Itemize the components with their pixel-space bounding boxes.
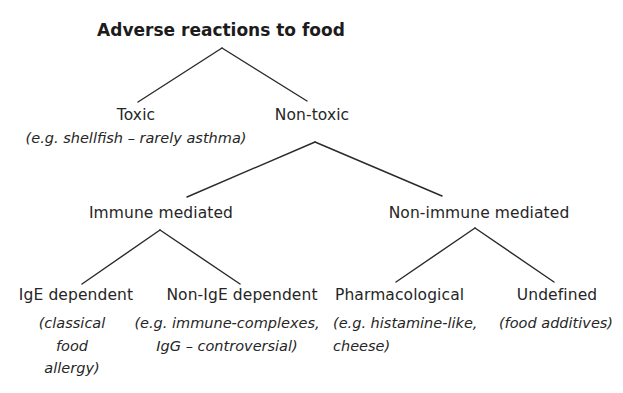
note-undefined: (food additives) — [499, 312, 613, 335]
note-pharmacological: (e.g. histamine-like, cheese) — [333, 312, 477, 357]
edge-non-toxic-to-non-immune — [315, 142, 442, 196]
note-toxic: (e.g. shellfish – rarely asthma) — [26, 127, 247, 150]
node-non-immune-mediated: Non-immune mediated — [389, 206, 570, 222]
note-line: (e.g. immune-complexes, — [134, 312, 319, 335]
edge-immune-to-ige — [82, 230, 160, 284]
edge-non-immune-to-undefined — [475, 228, 554, 282]
note-line: (e.g. histamine-like, — [333, 312, 477, 335]
node-immune-mediated: Immune mediated — [89, 206, 233, 222]
node-ige-dependent: IgE dependent — [19, 288, 133, 304]
note-non-ige-dependent: (e.g. immune-complexes, IgG – controvers… — [134, 312, 319, 357]
node-non-ige-dependent: Non-IgE dependent — [166, 288, 317, 304]
edge-immune-to-non-ige — [160, 230, 240, 284]
food-reaction-tree-diagram: Adverse reactions to food Toxic (e.g. sh… — [0, 0, 623, 393]
node-non-toxic: Non-toxic — [275, 108, 349, 124]
edge-non-toxic-to-immune — [187, 142, 315, 197]
node-pharmacological: Pharmacological — [335, 288, 464, 304]
edge-root-to-non-toxic — [222, 48, 307, 101]
note-line: (classical — [39, 312, 106, 335]
node-toxic: Toxic — [117, 108, 155, 124]
note-line: allergy) — [39, 357, 106, 380]
note-line: cheese) — [333, 335, 477, 358]
node-undefined: Undefined — [517, 288, 597, 304]
root-title: Adverse reactions to food — [97, 22, 345, 39]
edge-root-to-toxic — [138, 48, 222, 102]
edge-non-immune-to-pharmacological — [396, 228, 475, 282]
note-ige-dependent: (classical food allergy) — [39, 312, 106, 380]
note-line: IgG – controversial) — [134, 335, 319, 358]
note-line: food — [39, 335, 106, 358]
